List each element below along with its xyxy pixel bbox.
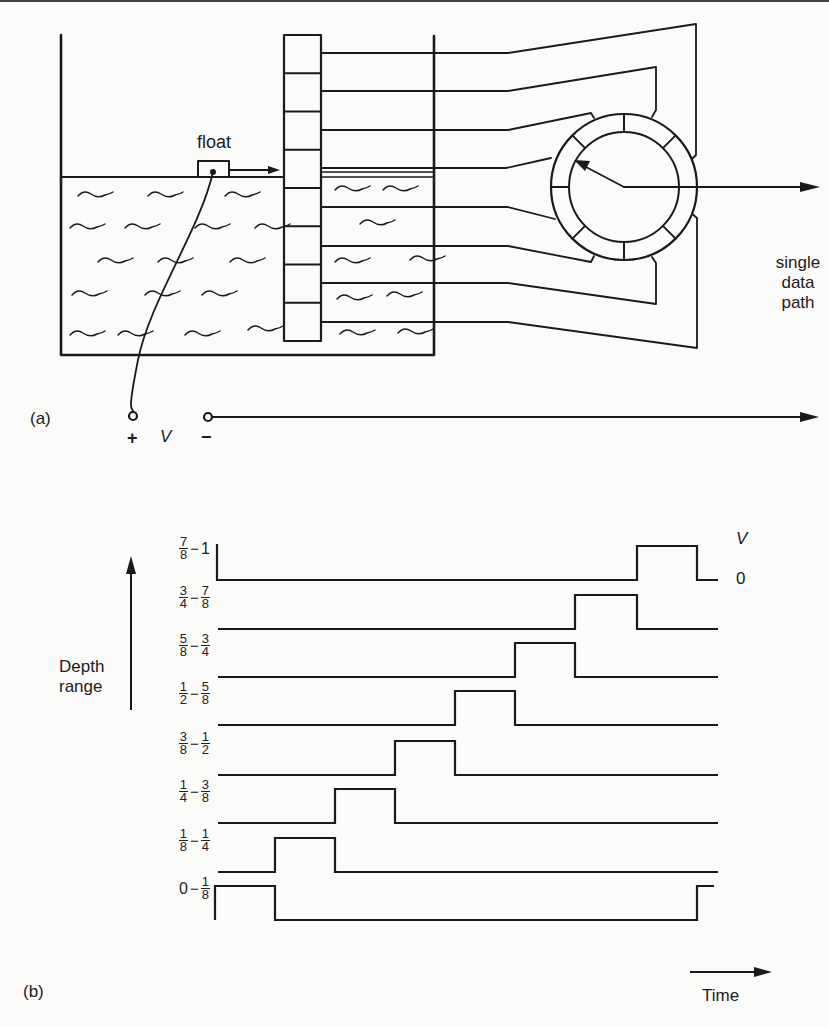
trace-row-2	[218, 595, 718, 629]
depth-range-label: 0−18	[179, 876, 210, 901]
depth-range-label: 18−14	[179, 828, 210, 853]
depth-range-label: 78−1	[179, 536, 210, 561]
trace-row-7	[218, 838, 718, 872]
depth-range-label: 34−78	[179, 585, 210, 610]
trace-row-5	[218, 741, 718, 775]
signal-traces	[215, 544, 718, 920]
level-high-label: V	[736, 530, 747, 549]
trace-row-4	[218, 691, 718, 725]
depth-arrow-head-icon	[126, 556, 136, 574]
depth-range-label: 12−58	[179, 681, 210, 706]
timing-chart	[0, 0, 829, 1027]
trace-row-8	[215, 886, 714, 920]
part-b-label: (b)	[23, 983, 44, 1002]
trace-row-3	[218, 643, 718, 677]
x-axis-label: Time	[702, 987, 739, 1006]
y-axis-label: Depth range	[59, 657, 104, 697]
depth-range-label: 38−12	[179, 731, 210, 756]
trace-row-6	[218, 789, 718, 823]
depth-range-label: 58−34	[179, 633, 210, 658]
time-arrow-head-icon	[754, 967, 772, 977]
depth-range-label: 14−38	[179, 779, 210, 804]
level-low-label: 0	[736, 570, 745, 589]
trace-row-1	[217, 544, 718, 580]
